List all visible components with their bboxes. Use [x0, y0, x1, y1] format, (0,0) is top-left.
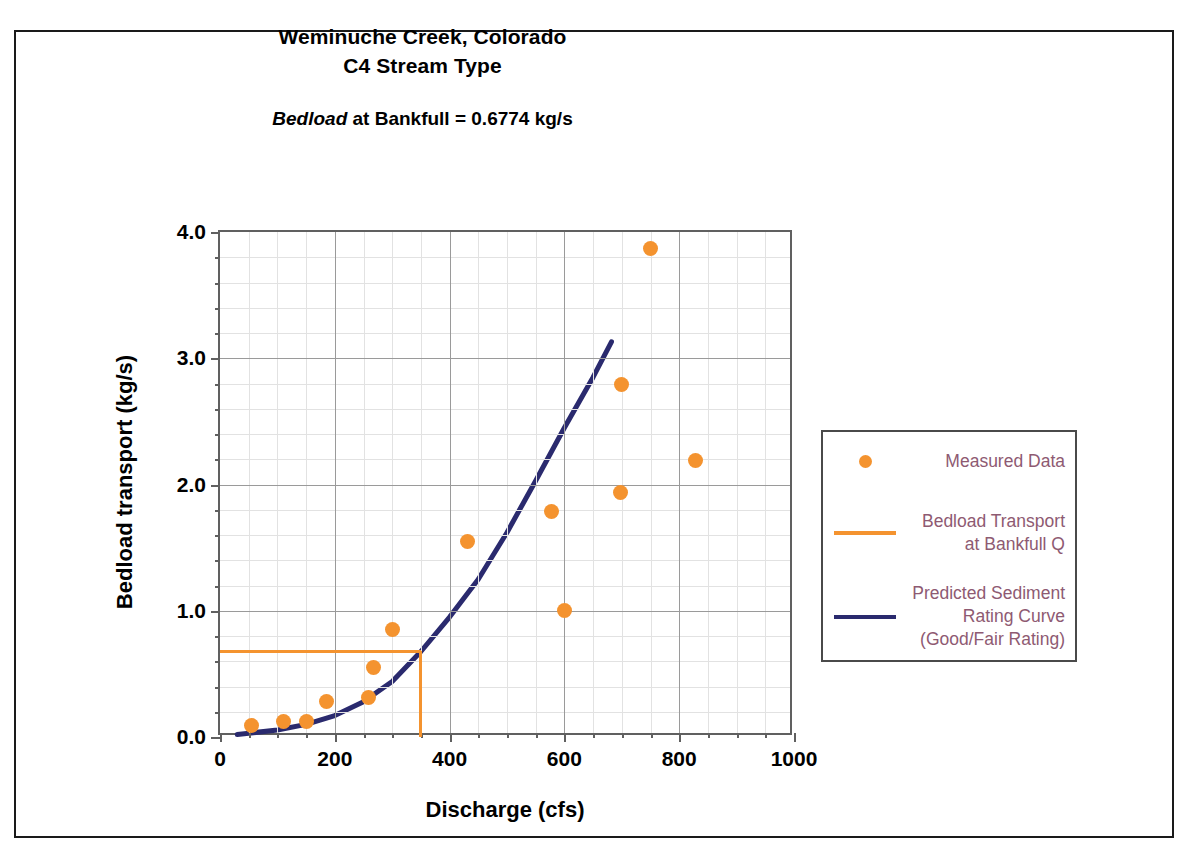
legend-label-line: Measured Data — [907, 450, 1065, 473]
legend-item: Bedload Transportat Bankfull Q — [823, 510, 1075, 556]
subtitle-rest: at Bankfull = 0.6774 kg/s — [347, 108, 572, 129]
legend-label-line: (Good/Fair Rating) — [907, 628, 1065, 651]
legend-swatch — [834, 615, 896, 619]
legend-marker-icon — [823, 455, 907, 468]
x-axis-title: Discharge (cfs) — [218, 797, 792, 823]
legend-label-line: Rating Curve — [907, 605, 1065, 628]
legend-label-line: Predicted Sediment — [907, 582, 1065, 605]
legend-item: Predicted SedimentRating Curve(Good/Fair… — [823, 582, 1075, 651]
legend-label: Predicted SedimentRating Curve(Good/Fair… — [907, 582, 1075, 651]
chart-title: Weminuche Creek, Colorado C4 Stream Type — [0, 22, 845, 80]
y-axis-title: Bedload transport (kg/s) — [112, 355, 138, 609]
legend-swatch — [834, 531, 896, 535]
legend-swatch — [859, 455, 872, 468]
legend-line-icon — [823, 531, 907, 535]
chart-subtitle: Bedload at Bankfull = 0.6774 kg/s — [0, 108, 845, 130]
legend-label: Measured Data — [907, 450, 1075, 473]
title-line-2: C4 Stream Type — [0, 51, 845, 80]
legend-item: Measured Data — [823, 450, 1075, 473]
legend-line-icon — [823, 615, 907, 619]
legend-label: Bedload Transportat Bankfull Q — [907, 510, 1075, 556]
legend-label-line: at Bankfull Q — [907, 533, 1065, 556]
legend-label-line: Bedload Transport — [907, 510, 1065, 533]
chart-legend: Measured DataBedload Transportat Bankful… — [821, 430, 1077, 662]
subtitle-italic-word: Bedload — [272, 108, 347, 129]
title-line-1: Weminuche Creek, Colorado — [0, 22, 845, 51]
